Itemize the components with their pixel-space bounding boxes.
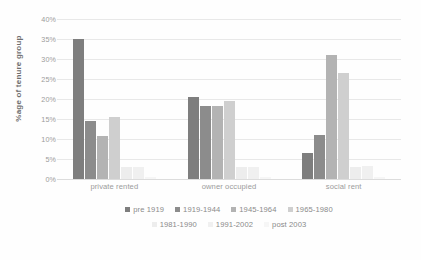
legend-item[interactable]: 1919-1944 (175, 205, 220, 214)
legend-swatch-icon (125, 207, 130, 212)
chart-legend: pre 19191919-19441945-19641965-1980 1981… (57, 202, 401, 232)
legend-label: 1945-1964 (239, 205, 276, 214)
gridline (57, 179, 401, 180)
bar[interactable] (314, 135, 325, 179)
x-axis-category-label: social rent (286, 182, 401, 191)
y-axis-title: %age of tenure group (14, 19, 23, 139)
legend-label: 1919-1944 (183, 205, 220, 214)
legend-item[interactable]: 1945-1964 (231, 205, 276, 214)
bar[interactable] (302, 153, 313, 179)
y-axis-tick: 10% (41, 135, 56, 144)
y-axis-tick: 5% (45, 155, 56, 164)
bar-chart: %age of tenure group 40%35%30%25%20%15%1… (0, 0, 421, 260)
bar[interactable] (212, 106, 223, 179)
bar-groups (57, 19, 401, 179)
legend-swatch-icon (152, 222, 157, 227)
bar[interactable] (350, 167, 361, 179)
bar[interactable] (260, 177, 271, 179)
bar[interactable] (97, 136, 108, 179)
bar[interactable] (374, 177, 385, 179)
legend-swatch-icon (208, 222, 213, 227)
legend-item[interactable]: 1965-1980 (288, 205, 333, 214)
x-axis-category-label: owner occupied (172, 182, 287, 191)
bar-group (286, 19, 401, 179)
y-axis-tick: 20% (41, 95, 56, 104)
y-axis-tick: 25% (41, 75, 56, 84)
y-axis-tick: 40% (41, 15, 56, 24)
bar[interactable] (109, 117, 120, 179)
legend-item[interactable]: 1981-1990 (152, 220, 197, 229)
x-axis-category-labels: private rentedowner occupiedsocial rent (57, 182, 401, 191)
legend-label: 1991-2002 (216, 220, 253, 229)
legend-item[interactable]: post 2003 (264, 220, 306, 229)
legend-swatch-icon (175, 207, 180, 212)
legend-label: 1965-1980 (296, 205, 333, 214)
legend-swatch-icon (264, 222, 269, 227)
bar[interactable] (362, 166, 373, 179)
bar[interactable] (121, 167, 132, 179)
y-axis-tick: 0% (45, 175, 56, 184)
y-axis-tick: 35% (41, 35, 56, 44)
bar[interactable] (133, 167, 144, 179)
legend-row-2: 1981-19901991-2002post 2003 (57, 217, 401, 232)
bar[interactable] (145, 177, 156, 179)
y-axis-tick-labels: 40%35%30%25%20%15%10%5%0% (26, 13, 56, 185)
bar[interactable] (224, 101, 235, 179)
legend-label: 1981-1990 (160, 220, 197, 229)
bar[interactable] (248, 167, 259, 179)
bar[interactable] (200, 106, 211, 179)
legend-swatch-icon (231, 207, 236, 212)
bar-group (172, 19, 287, 179)
legend-row-1: pre 19191919-19441945-19641965-1980 (57, 202, 401, 217)
legend-item[interactable]: 1991-2002 (208, 220, 253, 229)
bar[interactable] (236, 167, 247, 179)
bar[interactable] (188, 97, 199, 179)
bar[interactable] (326, 55, 337, 179)
x-axis-category-label: private rented (57, 182, 172, 191)
bar[interactable] (85, 121, 96, 179)
y-axis-tick: 15% (41, 115, 56, 124)
bar-group (57, 19, 172, 179)
plot-area (57, 19, 401, 179)
y-axis-tick: 30% (41, 55, 56, 64)
bar[interactable] (73, 39, 84, 179)
legend-label: post 2003 (272, 220, 306, 229)
legend-swatch-icon (288, 207, 293, 212)
bar[interactable] (338, 73, 349, 179)
legend-item[interactable]: pre 1919 (125, 205, 164, 214)
legend-label: pre 1919 (133, 205, 164, 214)
